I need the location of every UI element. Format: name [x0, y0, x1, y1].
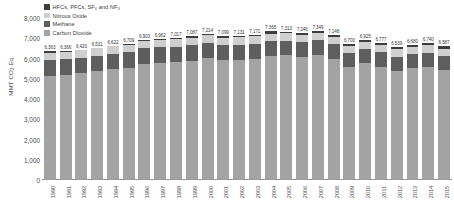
stacked-bar[interactable]: 6,709 [123, 44, 135, 179]
bar-segment [138, 48, 150, 64]
bar-value-label: 7,148 [328, 29, 339, 34]
bar-group: 6,363 [42, 18, 58, 179]
bar-segment [328, 44, 340, 58]
stacked-bar[interactable]: 6,622 [107, 46, 119, 179]
legend-item-ch4[interactable]: Methane [44, 20, 120, 28]
stacked-bar[interactable]: 6,903 [138, 40, 150, 179]
bar-segment [60, 59, 72, 75]
bar-segment [343, 46, 355, 53]
bar-segment [75, 73, 87, 179]
stacked-bar[interactable]: 6,680 [407, 45, 419, 179]
legend-item-hfc[interactable]: HFCs, PFCs, SF₆ and NF₃ [44, 3, 120, 11]
bar-segment [296, 35, 308, 42]
y-axis-tick: 4,000 [8, 96, 40, 103]
stacked-bar[interactable]: 7,349 [312, 31, 324, 179]
bar-segment [107, 46, 119, 54]
stacked-bar[interactable]: 6,539 [391, 47, 403, 179]
x-axis-tick-cell: 1996 [137, 180, 153, 214]
bar-segment [328, 37, 340, 44]
stacked-bar[interactable]: 6,962 [154, 39, 166, 179]
x-axis-label: 2015 [444, 186, 450, 198]
stacked-bar[interactable]: 7,131 [233, 36, 245, 180]
stacked-bar[interactable]: 6,740 [422, 43, 434, 179]
bar-segment [233, 37, 245, 45]
bar-segment [154, 40, 166, 48]
x-axis-label: 2006 [302, 186, 308, 198]
stacked-bar[interactable]: 6,531 [91, 48, 103, 179]
bar-segment [217, 38, 229, 46]
stacked-bar[interactable]: 6,587 [438, 46, 450, 179]
x-axis-tick-cell: 1999 [184, 180, 200, 214]
bar-group: 6,531 [89, 18, 105, 179]
stacked-bar[interactable]: 7,313 [280, 32, 292, 179]
bar-segment [407, 47, 419, 55]
x-axis-tick-cell: 2011 [373, 180, 389, 214]
bar-value-label: 7,246 [297, 27, 308, 32]
stacked-bar[interactable]: 6,366 [60, 51, 72, 179]
bar-segment [296, 57, 308, 179]
bar-segment [407, 54, 419, 68]
y-axis: 8,0007,0006,0005,0004,0003,0002,0001,000… [8, 18, 40, 180]
bar-value-label: 7,214 [202, 28, 213, 33]
bar-segment [60, 75, 72, 179]
bar-value-label: 6,700 [344, 38, 355, 43]
x-axis-label: 2002 [239, 186, 245, 198]
stacked-bar[interactable]: 6,925 [359, 40, 371, 179]
bar-segment [123, 45, 135, 53]
bar-group: 6,700 [342, 18, 358, 179]
bar-segment [249, 44, 261, 59]
y-axis-tick: 8,000 [8, 15, 40, 22]
bar-segment [123, 52, 135, 68]
bar-value-label: 6,925 [360, 34, 371, 39]
stacked-bar[interactable]: 7,087 [186, 36, 198, 179]
bar-group: 6,740 [420, 18, 436, 179]
x-axis-tick-cell: 1991 [58, 180, 74, 214]
bar-group: 6,777 [373, 18, 389, 179]
x-axis-label: 2003 [255, 186, 261, 198]
bar-segment [91, 71, 103, 179]
x-axis-tick-cell: 2009 [342, 180, 358, 214]
bar-segment [359, 63, 371, 179]
bar-group: 7,099 [215, 18, 231, 179]
x-axis-tick-cell: 2002 [231, 180, 247, 214]
bar-group: 7,214 [200, 18, 216, 179]
x-axis-label: 1998 [176, 186, 182, 198]
stacked-bar[interactable]: 6,363 [44, 51, 56, 179]
y-axis-tick: 3,000 [8, 116, 40, 123]
x-axis-label: 2010 [365, 186, 371, 198]
stacked-bar[interactable]: 7,171 [249, 35, 261, 179]
stacked-bar[interactable]: 7,214 [202, 34, 214, 179]
stacked-bar[interactable]: 7,099 [217, 36, 229, 179]
bar-group: 6,622 [105, 18, 121, 179]
x-axis-tick-cell: 2000 [200, 180, 216, 214]
stacked-bar[interactable]: 7,246 [296, 33, 308, 179]
bar-segment [422, 45, 434, 53]
bar-group: 7,017 [168, 18, 184, 179]
stacked-bar[interactable]: 6,777 [375, 43, 387, 179]
stacked-bar[interactable]: 7,365 [265, 31, 277, 179]
x-axis-label: 2012 [397, 186, 403, 198]
x-axis: 1990199119921993199419951996199719981999… [42, 180, 452, 214]
bar-segment [375, 45, 387, 53]
bar-segment [202, 35, 214, 43]
stacked-bar[interactable]: 7,148 [328, 35, 340, 179]
x-axis-label: 2000 [208, 186, 214, 198]
stacked-bar[interactable]: 6,420 [75, 50, 87, 179]
legend-item-n2o[interactable]: Nitrous Oxide [44, 12, 120, 20]
bar-group: 6,709 [121, 18, 137, 179]
bar-group: 6,925 [357, 18, 373, 179]
bar-group: 6,366 [58, 18, 74, 179]
bar-segment [75, 50, 87, 57]
bar-segment [75, 58, 87, 74]
bar-value-label: 7,017 [171, 32, 182, 37]
stacked-bar[interactable]: 6,700 [343, 44, 355, 179]
bar-segment [154, 63, 166, 179]
legend-item-co2[interactable]: Carbon Dioxide [44, 29, 120, 37]
stacked-bar[interactable]: 7,017 [170, 38, 182, 179]
bar-value-label: 7,099 [218, 30, 229, 35]
bar-group: 6,420 [74, 18, 90, 179]
chart-container: MMT CO2 Eq. 8,0007,0006,0005,0004,0003,0… [0, 0, 454, 214]
bar-segment [422, 67, 434, 179]
x-axis-label: 1996 [144, 186, 150, 198]
bar-group: 6,962 [152, 18, 168, 179]
